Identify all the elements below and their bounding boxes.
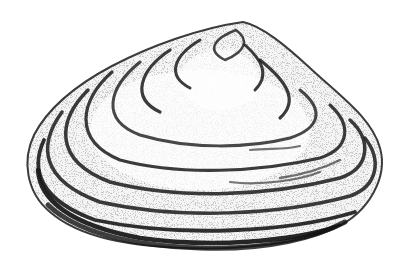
illustration-canvas (0, 0, 403, 271)
clam-shell-illustration (0, 0, 403, 271)
